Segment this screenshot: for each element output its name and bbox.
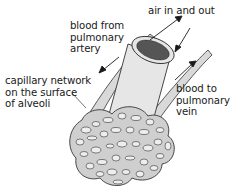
artery-arrowhead-icon (99, 66, 106, 73)
air-out-arrowhead-icon (175, 16, 182, 22)
air-out-arrow (150, 19, 178, 40)
alveolar-sac-cluster (70, 107, 175, 186)
air-in-arrowhead-icon (175, 45, 181, 52)
alveoli-diagram: air in and out blood from pulmonary arte… (0, 0, 237, 191)
label-pulmonary-artery: blood from pulmonary artery (70, 20, 124, 55)
label-air-in-out: air in and out (148, 5, 215, 17)
label-capillary-network: capillary network on the surface of alve… (5, 75, 91, 110)
label-pulmonary-vein: blood to pulmonary vein (176, 83, 230, 118)
air-in-arrow (178, 28, 190, 48)
artery-flow-arrow (103, 57, 119, 70)
